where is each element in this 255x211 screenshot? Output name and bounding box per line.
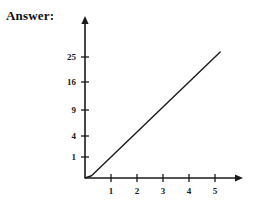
y-tick-label: 16 <box>67 77 77 87</box>
x-tick-label: 1 <box>109 186 114 196</box>
y-tick-label: 25 <box>67 52 77 62</box>
x-tick-label: 3 <box>161 186 166 196</box>
y-tick-label: 4 <box>72 131 77 141</box>
y-tick-label: 9 <box>72 105 77 115</box>
parabola-curve <box>85 52 220 178</box>
x-tick-label: 4 <box>187 186 192 196</box>
y-tick-label: 1 <box>72 152 77 162</box>
answer-graph-page: Answer: 12345 1491625 <box>0 0 255 211</box>
x-tick-label: 5 <box>213 186 218 196</box>
x-axis-arrowhead <box>235 174 243 181</box>
y-axis-arrowhead <box>81 16 88 24</box>
axes-group <box>81 16 243 182</box>
parabola-plot: 12345 1491625 <box>0 0 255 211</box>
x-tick-label: 2 <box>135 186 140 196</box>
